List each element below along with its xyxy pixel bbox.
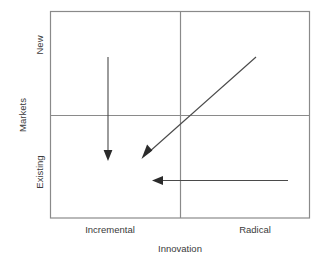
arrow-radical-new-to-incremental-existing (142, 57, 257, 159)
y-axis-category-new: New (34, 35, 45, 54)
y-axis-category-existing: Existing (34, 155, 45, 188)
x-axis-category-incremental: Incremental (85, 224, 135, 235)
arrow-shaft (149, 57, 257, 153)
arrow-head (104, 150, 113, 161)
x-axis-category-radical: Radical (239, 224, 271, 235)
arrow-radical-existing-to-incremental-existing (152, 176, 288, 185)
arrow-head (142, 145, 153, 159)
arrow-head (152, 176, 163, 185)
matrix-canvas: Markets New Existing Incremental Radical… (0, 0, 329, 266)
x-axis-title: Innovation (158, 243, 202, 254)
arrow-new-incremental-down (104, 57, 113, 161)
y-axis-title: Markets (17, 98, 28, 132)
innovation-markets-matrix-diagram: Markets New Existing Incremental Radical… (0, 0, 329, 266)
